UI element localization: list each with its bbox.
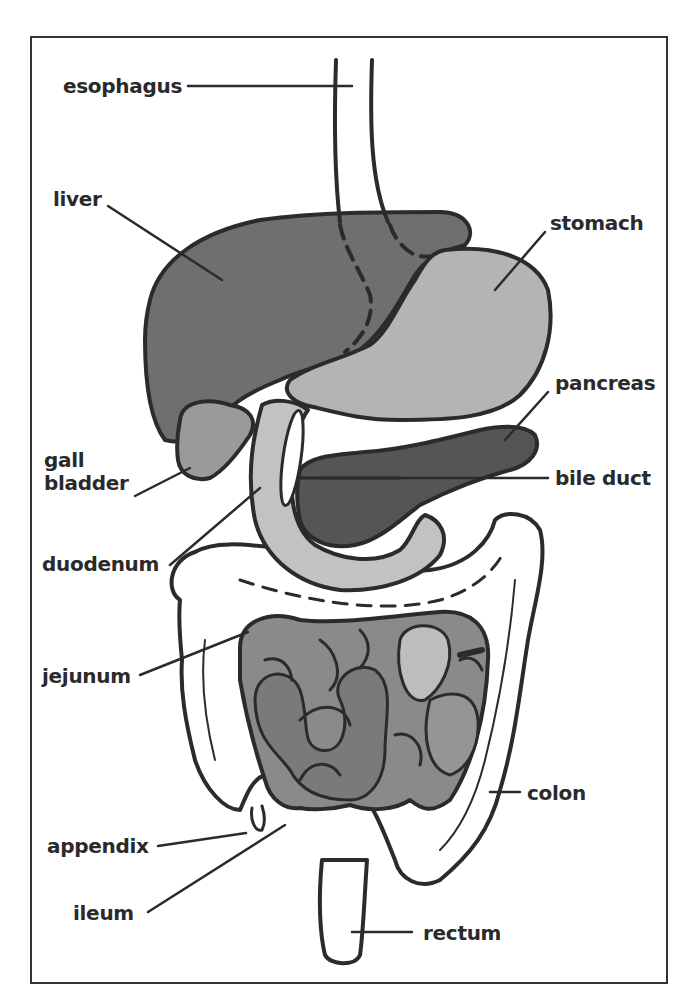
label-duodenum: duodenum: [42, 553, 159, 575]
label-bladder: bladder: [44, 472, 129, 494]
rectum-shape: [320, 860, 367, 963]
label-esophagus: esophagus: [63, 75, 182, 97]
label-colon: colon: [527, 782, 586, 804]
leader-gall-bladder: [135, 468, 190, 496]
leader-appendix: [158, 833, 246, 846]
label-pancreas: pancreas: [555, 372, 655, 394]
label-liver: liver: [53, 188, 102, 210]
label-ileum: ileum: [73, 902, 134, 924]
label-jejunum: jejunum: [42, 665, 131, 687]
label-bile-duct: bile duct: [555, 467, 651, 489]
label-appendix: appendix: [47, 835, 149, 857]
label-gall: gall: [44, 449, 84, 471]
label-stomach: stomach: [550, 212, 644, 234]
label-rectum: rectum: [423, 922, 501, 944]
